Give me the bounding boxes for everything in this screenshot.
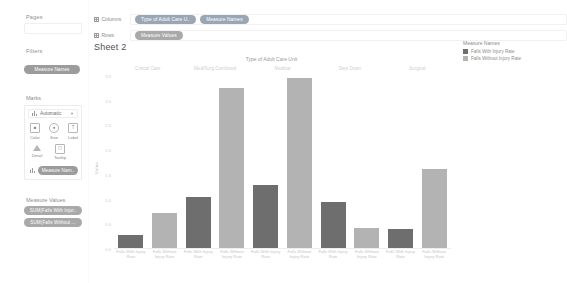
chart-bar[interactable] [152, 213, 177, 249]
bar-slot [283, 76, 317, 249]
legend-item-label: Falls With Injury Rate [471, 49, 515, 54]
mark-type-value: Automatic [40, 111, 61, 116]
tooltip-icon: ◻ [55, 144, 65, 154]
marks-button-color[interactable]: ■ Color [30, 123, 40, 140]
legend-item-falls-with-injury[interactable]: Falls With Injury Rate [463, 49, 563, 54]
x-axis-label: Falls With Injury Rate [384, 249, 418, 275]
rows-shelf-label-wrap: Rows [94, 32, 130, 38]
x-axis-label: Falls Without Injury Rate [148, 249, 182, 275]
legend-item-falls-without-injury[interactable]: Falls Without Injury Rate [463, 56, 563, 61]
y-axis-tick: 2.0 [105, 148, 111, 153]
y-axis-tick: 1.5 [105, 172, 111, 177]
bar-slot [215, 76, 249, 249]
worksheet-main: Columns Type of Adult Care U.. Measure N… [88, 0, 567, 283]
columns-pill-type-of-adult-care-unit[interactable]: Type of Adult Care U.. [135, 15, 196, 24]
bar-slot [417, 76, 451, 249]
x-axis-label: Falls With Injury Rate [316, 249, 350, 275]
marks-button-size[interactable]: ● Size [49, 123, 59, 140]
marks-button-size-label: Size [50, 135, 58, 140]
chart-bar[interactable] [354, 228, 379, 249]
bar-slot [249, 76, 283, 249]
marks-buttons-row-2: Detail ◻ Tooltip [28, 144, 78, 161]
x-axis-label: Falls Without Injury Rate [350, 249, 384, 275]
x-axis-label: Falls With Injury Rate [249, 249, 283, 275]
columns-grid-icon [94, 17, 99, 22]
chevron-down-icon: ▼ [70, 111, 74, 116]
size-circle-icon: ● [49, 123, 59, 133]
marks-button-tooltip[interactable]: ◻ Tooltip [53, 144, 67, 161]
marks-card-label: Marks [0, 95, 88, 101]
chart-column-headers: Critical CareMed/Surg CombinedMedicalSte… [114, 66, 451, 74]
legend-item-label: Falls Without Injury Rate [471, 56, 521, 61]
filter-pill-measure-names[interactable]: Measure Names [24, 65, 80, 74]
chart-column-header: Medical [249, 66, 316, 74]
x-axis-label: Falls Without Injury Rate [215, 249, 249, 275]
columns-pill-measure-names[interactable]: Measure Names [200, 15, 249, 24]
chart-bar[interactable] [186, 197, 211, 249]
y-axis: 3.53.02.52.01.51.00.50.0 [96, 76, 112, 249]
x-axis-label: Falls With Injury Rate [114, 249, 148, 275]
legend-swatch [463, 49, 468, 54]
chart-plot [114, 76, 451, 249]
x-axis-label: Falls Without Injury Rate [283, 249, 317, 275]
bar-slot [316, 76, 350, 249]
chart-bar[interactable] [321, 202, 346, 249]
chart-column-header: Step Down [316, 66, 383, 74]
marks-button-detail[interactable]: Detail [30, 144, 44, 161]
chart-column-header: Critical Care [114, 66, 181, 74]
chart-bar[interactable] [422, 169, 447, 249]
marks-pill-measure-names[interactable]: Measure Nam.. [38, 166, 78, 175]
bar-slot [350, 76, 384, 249]
marks-button-label[interactable]: T Label [68, 123, 78, 140]
chart-bar[interactable] [118, 235, 143, 249]
marks-button-label-label: Label [68, 135, 78, 140]
marks-card: Automatic ▼ ■ Color ● Size T Label [24, 105, 82, 180]
rows-grid-icon [94, 33, 99, 38]
rows-shelf-label: Rows [102, 32, 115, 38]
chart-column-header: Med/Surg Combined [181, 66, 248, 74]
measure-values-label: Measure Values [0, 197, 88, 203]
y-axis-tick: 1.0 [105, 197, 111, 202]
columns-shelf-row: Columns Type of Adult Care U.. Measure N… [94, 13, 567, 25]
x-axis-label: Falls With Injury Rate [181, 249, 215, 275]
y-axis-tick: 0.5 [105, 222, 111, 227]
rows-shelf-dropzone[interactable]: Measure Values [130, 30, 567, 41]
measure-names-legend: Measure Names Falls With Injury Rate Fal… [463, 40, 563, 63]
detail-icon [33, 144, 41, 152]
chart-bar[interactable] [219, 88, 244, 249]
legend-title: Measure Names [463, 40, 563, 46]
label-text-icon: T [68, 123, 78, 133]
measure-value-pill-falls-with-injury[interactable]: SUM(Falls With Injur.. [24, 206, 82, 215]
y-axis-tick: 0.0 [105, 247, 111, 252]
tableau-worksheet: Pages Filters Measure Names Marks Automa… [0, 0, 567, 283]
bar-slot [148, 76, 182, 249]
marks-buttons-row-1: ■ Color ● Size T Label [28, 123, 78, 140]
filters-shelf-label: Filters [0, 48, 88, 54]
bar-chart-icon [32, 111, 37, 116]
color-palette-icon: ■ [30, 123, 40, 133]
pages-shelf-dropzone[interactable] [24, 23, 82, 34]
chart-bar[interactable] [287, 78, 312, 249]
y-axis-tick: 2.5 [105, 123, 111, 128]
bar-slot [384, 76, 418, 249]
filters-shelf-dropzone[interactable]: Measure Names [0, 57, 88, 75]
marks-button-detail-label: Detail [32, 153, 43, 158]
marks-button-color-label: Color [30, 135, 40, 140]
y-axis-tick: 3.5 [105, 74, 111, 79]
x-axis-labels: Falls With Injury RateFalls Without Inju… [114, 249, 451, 275]
x-axis-label: Falls Without Injury Rate [417, 249, 451, 275]
rows-pill-measure-values[interactable]: Measure Values [135, 31, 183, 40]
marks-button-tooltip-label: Tooltip [54, 155, 66, 160]
measure-value-pill-falls-without-injury[interactable]: SUM(Falls Without ... [24, 218, 82, 227]
bar-slot [114, 76, 148, 249]
columns-shelf-dropzone[interactable]: Type of Adult Care U.. Measure Names [130, 14, 567, 25]
chart-bar[interactable] [388, 229, 413, 249]
chart-column-header-title: Type of Adult Care Unit [88, 56, 455, 62]
sheet-title: Sheet 2 [94, 42, 126, 52]
marks-card-pill-row[interactable]: Measure Nam.. [28, 166, 78, 175]
bar-slot [181, 76, 215, 249]
chart-bar[interactable] [253, 185, 278, 249]
mark-type-dropdown[interactable]: Automatic ▼ [28, 109, 78, 118]
pages-shelf-label: Pages [0, 14, 88, 20]
worksheet-sidebar: Pages Filters Measure Names Marks Automa… [0, 0, 88, 283]
